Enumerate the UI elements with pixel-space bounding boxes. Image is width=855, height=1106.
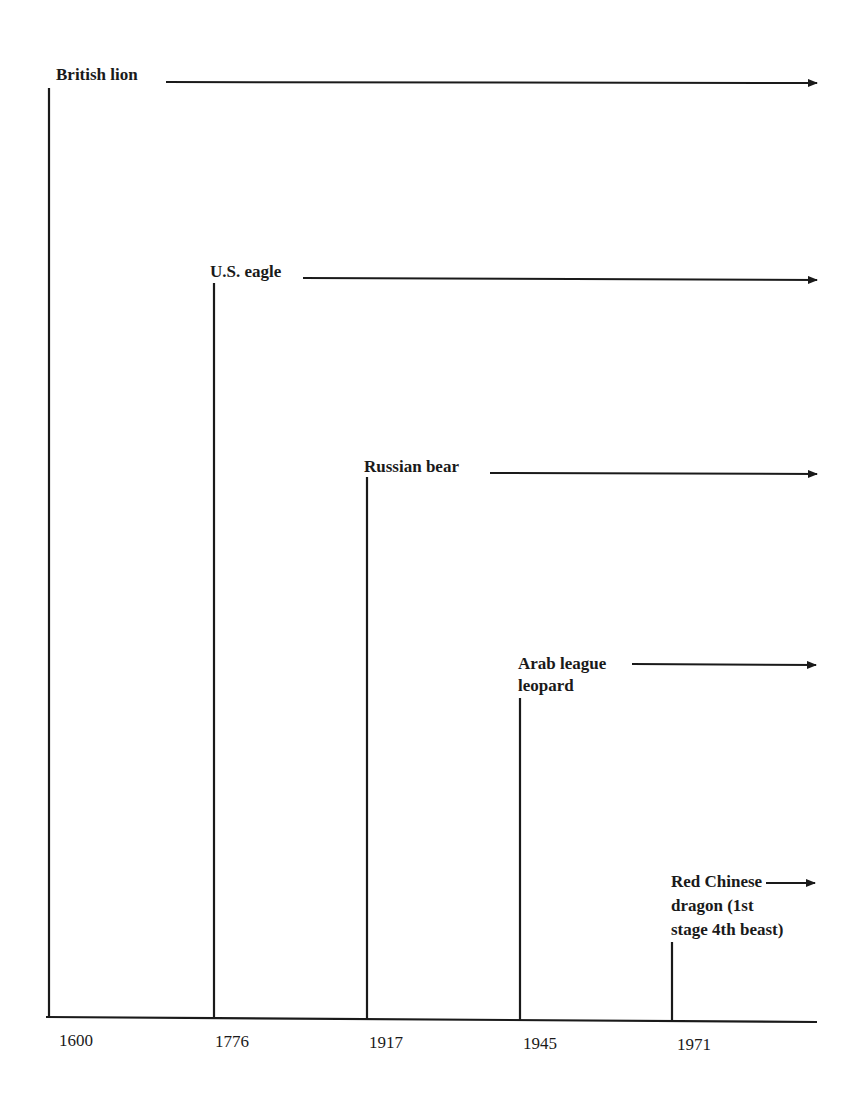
label-line: stage 4th beast) [671,918,783,942]
year-label-1600: 1600 [59,1031,93,1051]
right-arrow-icon [632,664,816,665]
label-russian-bear: Russian bear [364,456,459,478]
label-line: dragon (1st [671,894,783,918]
right-arrow-icon [490,473,817,474]
label-line: Russian bear [364,457,459,476]
label-line: U.S. eagle [210,262,281,281]
right-arrow-icon [166,82,817,83]
year-label-1776: 1776 [215,1032,249,1052]
label-arab-league-leopard: Arab league leopard [518,653,606,697]
timeline-baseline [46,1017,817,1022]
label-red-chinese-dragon: Red Chinese dragon (1st stage 4th beast) [671,870,783,942]
label-line: Red Chinese [671,870,783,894]
label-line: British lion [56,65,138,84]
label-line: Arab league [518,653,606,675]
right-arrow-icon [303,278,817,280]
year-label-1971: 1971 [677,1035,711,1055]
year-label-1917: 1917 [369,1033,403,1053]
power-arab-league-leopard [520,664,816,1020]
year-label-1945: 1945 [523,1034,557,1054]
label-british-lion: British lion [56,64,138,86]
label-us-eagle: U.S. eagle [210,261,281,283]
label-line: leopard [518,675,606,697]
